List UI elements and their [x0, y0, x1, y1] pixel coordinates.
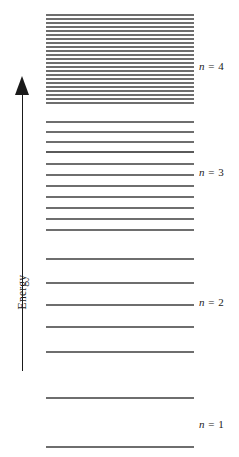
- energy-level-line-n3: [46, 196, 194, 198]
- n-symbol: n: [199, 296, 205, 308]
- n-value: 4: [218, 60, 224, 72]
- energy-level-line-n4: [46, 78, 194, 80]
- energy-level-line-n3: [46, 141, 194, 143]
- n-symbol: n: [199, 166, 205, 178]
- energy-level-line-n4: [46, 38, 194, 40]
- energy-level-line-n4: [46, 22, 194, 24]
- energy-level-line-n1: [46, 397, 194, 399]
- equals-sign: =: [207, 60, 215, 72]
- level-label-n3: n = 3: [199, 167, 224, 178]
- equals-sign: =: [207, 296, 215, 308]
- energy-level-line-n4: [46, 18, 194, 20]
- level-label-n1: n = 1: [199, 419, 224, 430]
- energy-level-line-n2: [46, 351, 194, 353]
- energy-level-line-n1: [46, 446, 194, 448]
- energy-level-line-n4: [46, 54, 194, 56]
- energy-level-line-n4: [46, 94, 194, 96]
- energy-level-line-n4: [46, 26, 194, 28]
- equals-sign: =: [207, 418, 215, 430]
- energy-level-line-n4: [46, 98, 194, 100]
- energy-level-line-n3: [46, 151, 194, 153]
- energy-level-line-n2: [46, 258, 194, 260]
- energy-level-line-n2: [46, 304, 194, 306]
- energy-level-diagram: Energy n = 4n = 3n = 2n = 1: [0, 0, 239, 457]
- energy-level-line-n4: [46, 90, 194, 92]
- energy-level-line-n3: [46, 121, 194, 123]
- equals-sign: =: [207, 166, 215, 178]
- n-value: 3: [218, 166, 224, 178]
- energy-level-line-n4: [46, 102, 194, 104]
- n-symbol: n: [199, 418, 205, 430]
- energy-level-line-n2: [46, 326, 194, 328]
- energy-level-line-n4: [46, 74, 194, 76]
- energy-level-line-n4: [46, 30, 194, 32]
- n-value: 2: [218, 296, 224, 308]
- energy-level-line-n3: [46, 131, 194, 133]
- energy-level-line-n4: [46, 58, 194, 60]
- energy-level-line-n4: [46, 46, 194, 48]
- energy-level-line-n4: [46, 42, 194, 44]
- n-symbol: n: [199, 60, 205, 72]
- energy-level-line-n4: [46, 14, 194, 16]
- n-value: 1: [218, 418, 224, 430]
- energy-level-line-n3: [46, 207, 194, 209]
- energy-level-line-n3: [46, 229, 194, 231]
- energy-level-line-n4: [46, 70, 194, 72]
- energy-level-line-n2: [46, 282, 194, 284]
- energy-level-line-n4: [46, 62, 194, 64]
- energy-level-line-n3: [46, 218, 194, 220]
- energy-level-line-n3: [46, 163, 194, 165]
- energy-level-line-n4: [46, 34, 194, 36]
- energy-level-line-n3: [46, 185, 194, 187]
- energy-level-line-n4: [46, 86, 194, 88]
- energy-level-line-n4: [46, 82, 194, 84]
- energy-level-line-n4: [46, 66, 194, 68]
- energy-level-line-n4: [46, 50, 194, 52]
- energy-level-line-n3: [46, 174, 194, 176]
- level-label-n4: n = 4: [199, 61, 224, 72]
- level-label-n2: n = 2: [199, 297, 224, 308]
